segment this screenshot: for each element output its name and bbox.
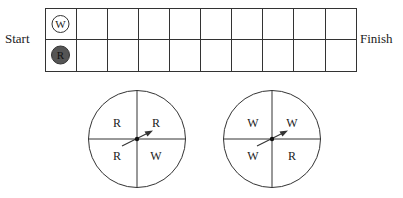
spinner-2-top-right: W [286, 116, 298, 130]
spinner-2-top-left: W [247, 116, 259, 130]
red-token-label: R [57, 49, 65, 61]
spinner-2: W W W R [224, 91, 321, 188]
spinner-1-top-left: R [113, 116, 121, 130]
game-diagram: W R R R R W W W W R [0, 0, 403, 198]
game-board [45, 8, 357, 72]
spinner-1: R R R W [89, 91, 186, 188]
spinner-1-bottom-left: R [113, 149, 121, 163]
spinner-1-top-right: R [152, 116, 160, 130]
spinner-2-bottom-left: W [247, 149, 259, 163]
spinner-1-bottom-right: W [150, 149, 162, 163]
white-token: W [52, 16, 69, 33]
spinner-2-bottom-right: R [288, 149, 296, 163]
white-token-label: W [55, 18, 66, 30]
red-token: R [52, 46, 70, 64]
